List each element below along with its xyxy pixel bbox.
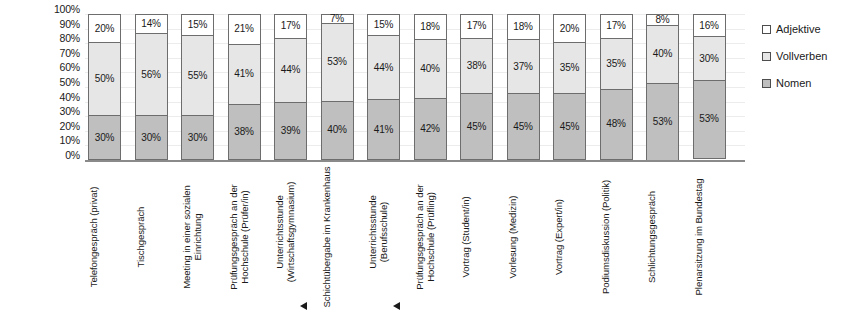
bar[interactable]: 15%55%30% <box>181 14 214 160</box>
x-axis-label-text: Tischgespräch <box>135 164 146 310</box>
bar-segment[interactable]: 55% <box>181 36 214 116</box>
bar-segment-value-label: 44% <box>281 65 300 75</box>
x-axis-label-text: Schichtübergabe im Krankenhaus <box>321 164 332 310</box>
bar-segment[interactable]: 30% <box>693 37 726 81</box>
legend-item[interactable]: Adjektive <box>762 24 850 35</box>
triangle-marker-icon <box>300 302 307 310</box>
x-axis-label: Schlichtungsgespräch <box>646 164 679 310</box>
bar-segment-value-label: 38% <box>467 61 486 71</box>
bar-segment[interactable]: 20% <box>553 14 586 43</box>
bar[interactable]: 20%35%45% <box>553 14 586 160</box>
bar[interactable]: 18%40%42% <box>414 14 447 160</box>
bar-segment-value-label: 14% <box>141 19 160 29</box>
bar-segment[interactable]: 38% <box>228 105 261 160</box>
bar[interactable]: 17%38%45% <box>460 14 493 160</box>
bar-segment[interactable]: 18% <box>507 14 540 40</box>
bar-segment[interactable]: 42% <box>414 99 447 160</box>
y-axis: 100%90%80%70%60%50%40%30%20%10%0% <box>28 9 80 161</box>
x-axis-label-text: Podiumsdiskussion (Politik) <box>600 164 611 310</box>
x-axis-label: Tischgespräch <box>135 164 168 310</box>
bar-segment[interactable]: 41% <box>367 100 400 160</box>
plot-area: 20%50%30%14%56%30%15%55%30%21%41%38%17%4… <box>85 14 745 160</box>
bar[interactable]: 16%30%53% <box>693 14 726 160</box>
bar[interactable]: 20%50%30% <box>88 14 121 160</box>
bar-segment[interactable]: 17% <box>274 14 307 39</box>
bar-segment-value-label: 40% <box>653 49 672 59</box>
bar-segment[interactable]: 45% <box>507 94 540 160</box>
x-axis-label-text: Vorlesung (Medizin) <box>507 164 518 310</box>
y-axis-tick-label: 10% <box>28 135 80 146</box>
bar-segment-value-label: 53% <box>327 57 346 67</box>
bar-segment-value-label: 45% <box>560 122 579 132</box>
x-axis-label: Meeting in einer sozialen Einrichtung <box>181 164 214 310</box>
bar[interactable]: 7%53%40% <box>321 14 354 160</box>
bar-segment-value-label: 56% <box>141 70 160 80</box>
bar-segment-value-label: 37% <box>513 62 532 72</box>
bar-segment[interactable]: 35% <box>553 43 586 94</box>
bar[interactable]: 8%40%53% <box>646 14 679 160</box>
bar-segment[interactable]: 50% <box>88 43 121 116</box>
legend-item[interactable]: Vollverben <box>762 51 850 62</box>
x-axis-label: Prüfungsgespräch an der Hochschule (Prüf… <box>414 164 447 310</box>
bar-segment[interactable]: 45% <box>553 94 586 160</box>
y-axis-tick-label: 100% <box>28 4 80 15</box>
bar[interactable]: 17%35%48% <box>600 14 633 160</box>
bar-segment[interactable]: 17% <box>460 14 493 39</box>
bar-segment-value-label: 18% <box>513 22 532 32</box>
bar-segment-value-label: 40% <box>420 64 439 74</box>
bar-segment[interactable]: 45% <box>460 94 493 160</box>
bar-segment-value-label: 7% <box>330 14 344 24</box>
bar-segment-value-label: 48% <box>606 119 625 129</box>
bar-segment[interactable]: 17% <box>600 14 633 39</box>
bar-segment[interactable]: 35% <box>600 39 633 90</box>
bar[interactable]: 14%56%30% <box>135 14 168 160</box>
bar-segment[interactable]: 8% <box>646 14 679 26</box>
bar-segment[interactable]: 7% <box>321 14 354 24</box>
x-axis-label-text: Vortrag (Student/in) <box>460 164 471 310</box>
bar-segment[interactable]: 30% <box>88 116 121 160</box>
bar[interactable]: 18%37%45% <box>507 14 540 160</box>
bar-segment[interactable]: 18% <box>414 14 447 40</box>
bar-segment-value-label: 53% <box>699 114 718 124</box>
bar-segment-value-label: 50% <box>95 74 114 84</box>
bar-segment[interactable]: 16% <box>693 14 726 37</box>
legend-swatch-icon <box>762 52 771 61</box>
bar[interactable]: 17%44%39% <box>274 14 307 160</box>
bar-segment-value-label: 35% <box>606 59 625 69</box>
legend-item[interactable]: Nomen <box>762 78 850 89</box>
bar-segment[interactable]: 53% <box>693 81 726 158</box>
bar-segment-value-label: 15% <box>374 20 393 30</box>
bar-segment-value-label: 17% <box>606 21 625 31</box>
x-axis-label-text: Plenarsitzung im Bundestag <box>693 164 704 310</box>
bar-segment[interactable]: 30% <box>181 116 214 160</box>
bar-segment-value-label: 55% <box>188 71 207 81</box>
bar-segment[interactable]: 30% <box>135 116 168 160</box>
bar-segment[interactable]: 14% <box>135 14 168 34</box>
bar-segment[interactable]: 15% <box>367 14 400 36</box>
bar-segment[interactable]: 20% <box>88 14 121 43</box>
bar-segment[interactable]: 48% <box>600 90 633 160</box>
x-axis-label-text: Unterrichtsstunde (Wirtschaftsgymnasium) <box>274 164 296 310</box>
bar-segment-value-label: 17% <box>281 21 300 31</box>
bar-segment[interactable]: 37% <box>507 40 540 94</box>
x-axis-label: Unterrichtsstunde (Wirtschaftsgymnasium) <box>274 164 307 310</box>
bar-segment[interactable]: 41% <box>228 45 261 105</box>
bar-segment[interactable]: 53% <box>321 24 354 101</box>
bar-segment[interactable]: 56% <box>135 34 168 116</box>
bar-segment[interactable]: 38% <box>460 39 493 94</box>
bar-segment[interactable]: 40% <box>646 26 679 84</box>
bar-segment-value-label: 16% <box>699 21 718 31</box>
bar-segment[interactable]: 44% <box>367 36 400 100</box>
bar-segment-value-label: 20% <box>95 24 114 34</box>
y-axis-tick-label: 30% <box>28 106 80 117</box>
bar-segment[interactable]: 44% <box>274 39 307 103</box>
bar-segment[interactable]: 40% <box>321 102 354 160</box>
bar-segment[interactable]: 21% <box>228 14 261 45</box>
bar-segment[interactable]: 39% <box>274 103 307 160</box>
x-axis-labels: Telefongespräch (privat)TischgesprächMee… <box>85 164 745 314</box>
bar[interactable]: 21%41%38% <box>228 14 261 160</box>
bar-segment[interactable]: 40% <box>414 40 447 98</box>
bar-segment[interactable]: 53% <box>646 84 679 161</box>
bar-segment[interactable]: 15% <box>181 14 214 36</box>
bar[interactable]: 15%44%41% <box>367 14 400 160</box>
